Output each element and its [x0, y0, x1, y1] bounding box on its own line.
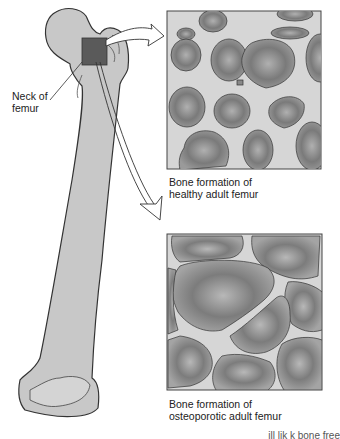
osteoporotic-caption-line1: Bone formation of: [169, 398, 282, 410]
osteoporotic-caption: Bone formation of osteoporotic adult fem…: [169, 398, 282, 422]
healthy-bone-panel: [167, 7, 334, 170]
femur-bone: [19, 9, 129, 417]
neck-of-femur-label: Neck of femur: [12, 90, 48, 114]
osteoporotic-bone-panel: [167, 234, 322, 390]
healthy-caption-line2: healthy adult femur: [169, 188, 258, 200]
healthy-caption-line1: Bone formation of: [169, 176, 258, 188]
healthy-caption: Bone formation of healthy adult femur: [169, 176, 258, 200]
cut-off-footer-text: ill lik k bone free: [170, 430, 340, 439]
osteoporotic-caption-line2: osteoporotic adult femur: [169, 410, 282, 422]
neck-label-line2: femur: [12, 102, 48, 114]
arrow-to-healthy: [106, 24, 164, 46]
highlight-square: [82, 38, 107, 65]
neck-label-line1: Neck of: [12, 90, 48, 102]
femur-diagram: [0, 0, 340, 439]
